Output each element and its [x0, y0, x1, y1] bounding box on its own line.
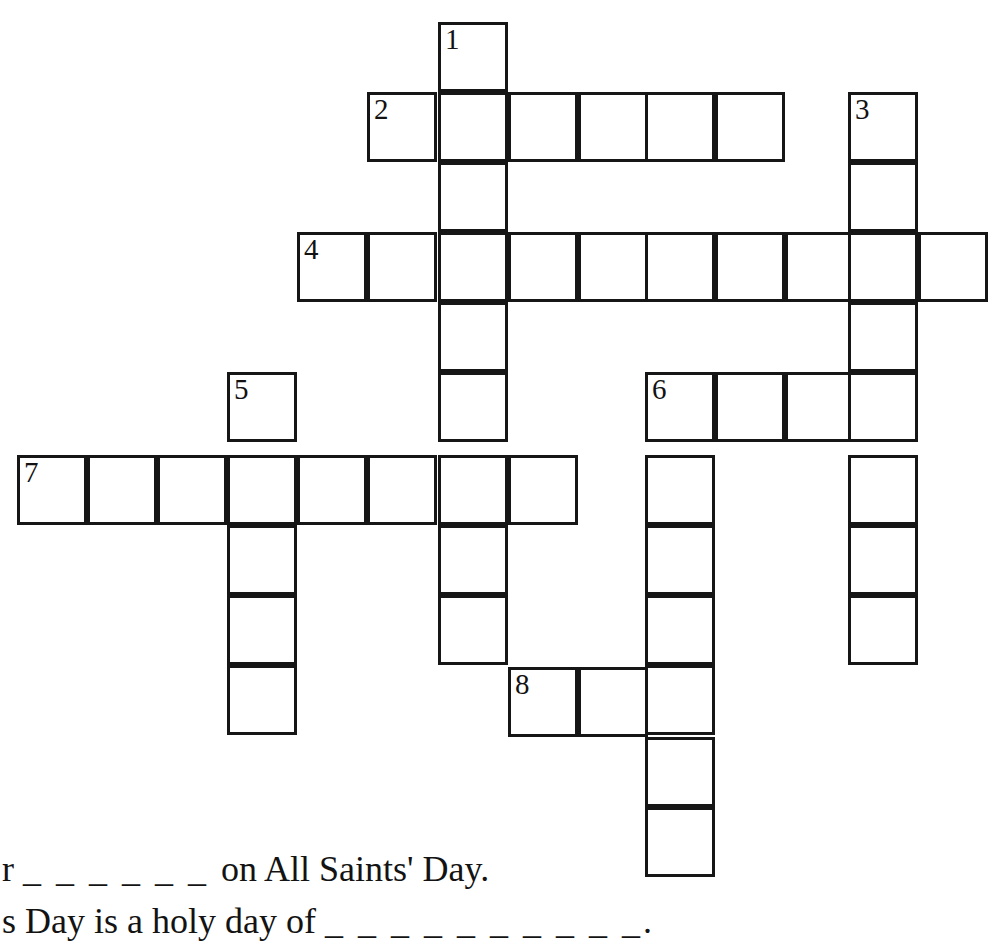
crossword-cell[interactable]	[578, 92, 648, 162]
clue-line-2-blank[interactable]: _ _ _ _ _ _ _ _ _ _	[325, 901, 643, 941]
crossword-cell[interactable]	[645, 232, 715, 302]
crossword-cell[interactable]	[645, 92, 715, 162]
clue-line-1: r _ _ _ _ _ _ on All Saints' Day.	[0, 844, 998, 894]
crossword-cell-start-4[interactable]: 4	[297, 232, 367, 302]
crossword-cell[interactable]	[645, 665, 715, 735]
cell-number-6: 6	[652, 374, 667, 404]
crossword-cell[interactable]	[227, 595, 297, 665]
crossword-cell[interactable]	[438, 595, 508, 665]
crossword-cell[interactable]	[645, 737, 715, 807]
crossword-cell[interactable]	[918, 232, 988, 302]
clue-text-block: r _ _ _ _ _ _ on All Saints' Day. s Day …	[0, 844, 998, 946]
crossword-cell[interactable]	[785, 232, 855, 302]
clue-line-1-blank[interactable]: _ _ _ _ _ _	[23, 849, 221, 889]
crossword-cell[interactable]	[438, 162, 508, 232]
crossword-cell-start-8[interactable]: 8	[508, 667, 578, 737]
crossword-cell[interactable]	[848, 525, 918, 595]
crossword-cell[interactable]	[438, 302, 508, 372]
worksheet-page: 12345678 r _ _ _ _ _ _ on All Saints' Da…	[0, 0, 998, 946]
crossword-cell[interactable]	[438, 455, 508, 525]
cell-number-3: 3	[855, 94, 870, 124]
crossword-cell[interactable]	[578, 232, 648, 302]
crossword-cell[interactable]	[438, 372, 508, 442]
crossword-cell[interactable]	[508, 232, 578, 302]
crossword-cell-start-7[interactable]: 7	[17, 455, 87, 525]
crossword-cell[interactable]	[367, 455, 437, 525]
cell-number-7: 7	[24, 457, 39, 487]
crossword-cell[interactable]	[715, 92, 785, 162]
crossword-grid[interactable]: 12345678	[0, 0, 998, 900]
crossword-cell-start-1[interactable]: 1	[438, 22, 508, 92]
clue-line-2-prefix: s Day is a holy day of	[2, 901, 325, 941]
clue-line-1-prefix: r	[2, 849, 23, 889]
crossword-cell-start-2[interactable]: 2	[367, 92, 437, 162]
crossword-cell[interactable]	[227, 665, 297, 735]
crossword-cell-start-3[interactable]: 3	[848, 92, 918, 162]
crossword-cell[interactable]	[848, 455, 918, 525]
crossword-cell[interactable]	[645, 525, 715, 595]
crossword-cell[interactable]	[87, 455, 157, 525]
clue-line-1-suffix: on All Saints' Day.	[221, 849, 489, 889]
cell-number-2: 2	[374, 94, 389, 124]
crossword-cell[interactable]	[848, 302, 918, 372]
crossword-cell[interactable]	[848, 162, 918, 232]
crossword-cell[interactable]	[367, 232, 437, 302]
crossword-cell[interactable]	[848, 372, 918, 442]
crossword-cell[interactable]	[715, 232, 785, 302]
clue-line-2-suffix: .	[643, 901, 652, 941]
crossword-cell-start-5[interactable]: 5	[227, 372, 297, 442]
crossword-cell[interactable]	[785, 372, 855, 442]
crossword-cell[interactable]	[848, 595, 918, 665]
crossword-cell[interactable]	[848, 232, 918, 302]
cell-number-4: 4	[304, 234, 319, 264]
clue-line-2: s Day is a holy day of _ _ _ _ _ _ _ _ _…	[0, 896, 998, 946]
cell-number-8: 8	[515, 669, 530, 699]
crossword-cell[interactable]	[227, 455, 297, 525]
crossword-cell[interactable]	[578, 667, 648, 737]
cell-number-5: 5	[234, 374, 249, 404]
crossword-cell[interactable]	[508, 92, 578, 162]
crossword-cell[interactable]	[438, 525, 508, 595]
crossword-cell[interactable]	[438, 232, 508, 302]
crossword-cell[interactable]	[157, 455, 227, 525]
crossword-cell[interactable]	[508, 455, 578, 525]
crossword-cell[interactable]	[645, 455, 715, 525]
crossword-cell[interactable]	[645, 595, 715, 665]
crossword-cell[interactable]	[297, 455, 367, 525]
cell-number-1: 1	[445, 24, 460, 54]
crossword-cell[interactable]	[227, 525, 297, 595]
crossword-cell[interactable]	[715, 372, 785, 442]
crossword-cell[interactable]	[438, 92, 508, 162]
crossword-cell-start-6[interactable]: 6	[645, 372, 715, 442]
